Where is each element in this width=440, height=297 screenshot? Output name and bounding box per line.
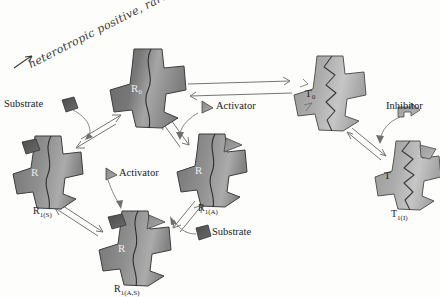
state-caption-R1AS-base: R <box>114 283 121 294</box>
substrate-icon-top-left[interactable] <box>62 97 78 112</box>
activator-icon-center[interactable] <box>106 168 117 180</box>
state-inner-label-R1A: R <box>195 164 203 176</box>
state-caption-T1I: T1(I) <box>391 209 408 222</box>
state-molecule-T0[interactable]: T₀ <box>294 56 366 131</box>
state-molecule-R1AS[interactable]: R <box>99 211 171 286</box>
state-molecule-R0[interactable]: R₀ <box>110 49 186 128</box>
ligand-label-activator-center: Activator <box>119 168 159 179</box>
state-inner-label-R0: R₀ <box>131 82 142 94</box>
equilibrium-arrow-t0-t1i[interactable] <box>347 128 386 160</box>
bound-activator-R1AS[interactable] <box>147 215 165 229</box>
state-inner-label-R1AS: R <box>118 242 126 254</box>
state-molecule-T1I[interactable]: T <box>375 141 440 210</box>
equilibrium-arrow-r0-t0[interactable] <box>188 77 292 100</box>
bound-activator-R1A[interactable] <box>224 138 242 152</box>
binding-arrow-substrate-r1s[interactable] <box>73 110 90 137</box>
state-inner-label-T0: T₀ <box>305 87 316 99</box>
state-caption-R1S-sub: 1(S) <box>40 211 52 219</box>
ligand-label-substrate-top-left: Substrate <box>4 99 43 110</box>
state-caption-R1AS: R1(A,S) <box>114 284 140 297</box>
substrate-icon-bottom-right[interactable] <box>196 225 211 240</box>
ligand-label-substrate-bottom-right: Substrate <box>212 227 251 238</box>
state-inner-label-T1I: T <box>384 169 391 181</box>
state-caption-R1A-sub: 1(A) <box>205 208 218 216</box>
ligand-label-activator-top-right: Activator <box>216 101 256 112</box>
state-caption-R1S: R1(S) <box>33 206 52 219</box>
state-caption-R1A-base: R <box>198 202 205 213</box>
activator-icon-top-right[interactable] <box>202 101 213 113</box>
state-caption-T1I-sub: 1(I) <box>397 214 408 222</box>
state-caption-R1A: R1(A) <box>198 203 218 216</box>
state-molecule-R1S[interactable]: R <box>13 136 83 209</box>
state-caption-R1AS-sub: 1(A,S) <box>121 289 140 297</box>
diagram-canvas: R₀ T₀ R R R <box>0 0 440 297</box>
state-inner-label-R1S: R <box>31 166 39 178</box>
ligand-label-inhibitor-right: Inhibitor <box>386 101 423 112</box>
equilibrium-arrow-r0-r1s[interactable] <box>76 115 121 148</box>
state-caption-R1S-base: R <box>33 205 40 216</box>
